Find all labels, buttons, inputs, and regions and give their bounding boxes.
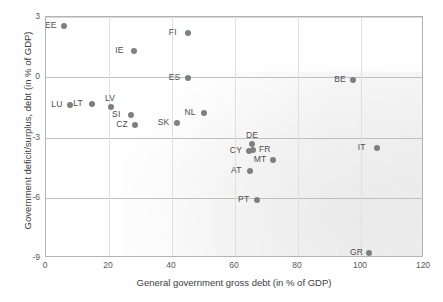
data-point-ie[interactable] xyxy=(131,48,137,54)
data-point-at[interactable] xyxy=(247,168,253,174)
point-label-cy: CY xyxy=(230,146,242,155)
point-label-de: DE xyxy=(246,131,258,140)
point-label-nl: NL xyxy=(185,108,196,117)
point-label-es: ES xyxy=(169,73,181,82)
x-tick-60: 60 xyxy=(229,260,238,270)
x-tick-40: 40 xyxy=(166,260,175,270)
data-point-ee[interactable] xyxy=(61,23,67,29)
gridline-x-80 xyxy=(298,17,299,256)
point-label-pt: PT xyxy=(238,195,249,204)
point-label-be: BE xyxy=(334,75,346,84)
point-label-gr: GR xyxy=(350,248,363,257)
scan-shading-secondary xyxy=(172,72,422,257)
point-label-mt: MT xyxy=(254,155,267,164)
point-label-lt: LT xyxy=(73,99,83,108)
gridline-x-20 xyxy=(109,17,110,256)
x-tick-120: 120 xyxy=(416,260,430,270)
point-label-lu: LU xyxy=(51,100,62,109)
gridline-y-3 xyxy=(46,17,422,18)
data-point-be[interactable] xyxy=(350,77,356,83)
data-point-fi[interactable] xyxy=(185,30,191,36)
point-label-lv: LV xyxy=(105,94,115,103)
data-point-pt[interactable] xyxy=(254,197,260,203)
gridline-x-100 xyxy=(361,17,362,256)
scatter-chart: EEFIIEESBELULTLVSICZSKNLDECYFRMTATPTITGR… xyxy=(0,0,443,302)
data-point-mt[interactable] xyxy=(270,157,276,163)
data-point-si[interactable] xyxy=(128,112,134,118)
x-tick-20: 20 xyxy=(103,260,112,270)
point-label-cz: CZ xyxy=(116,120,128,129)
point-label-it: IT xyxy=(358,143,366,152)
point-label-ie: IE xyxy=(115,46,123,55)
data-point-lt[interactable] xyxy=(89,101,95,107)
gridline-x-60 xyxy=(235,17,236,256)
gridline-y--6 xyxy=(46,198,422,199)
x-tick-100: 100 xyxy=(353,260,367,270)
x-axis-title: General government gross debt (in % of G… xyxy=(45,277,423,288)
point-label-si: SI xyxy=(112,110,120,119)
data-point-it[interactable] xyxy=(374,145,380,151)
data-point-nl[interactable] xyxy=(201,110,207,116)
data-point-es[interactable] xyxy=(185,75,191,81)
gridline-y-0 xyxy=(46,77,422,78)
gridline-y--3 xyxy=(46,138,422,139)
y-tick-neg9: -9 xyxy=(20,252,40,262)
point-label-fi: FI xyxy=(169,28,177,37)
data-point-cz[interactable] xyxy=(132,122,138,128)
y-axis-title: Government deficit/surplus, debt (in % o… xyxy=(22,11,33,251)
data-point-gr[interactable] xyxy=(366,250,372,256)
point-label-ee: EE xyxy=(45,21,57,30)
gridline-x-40 xyxy=(172,17,173,256)
data-point-fr[interactable] xyxy=(250,147,256,153)
plot-area: EEFIIEESBELULTLVSICZSKNLDECYFRMTATPTITGR xyxy=(45,16,423,257)
data-point-sk[interactable] xyxy=(174,120,180,126)
data-point-de[interactable] xyxy=(249,141,255,147)
point-label-sk: SK xyxy=(158,118,170,127)
x-tick-80: 80 xyxy=(292,260,301,270)
point-label-at: AT xyxy=(231,166,242,175)
x-tick-0: 0 xyxy=(43,260,48,270)
point-label-fr: FR xyxy=(259,145,271,154)
